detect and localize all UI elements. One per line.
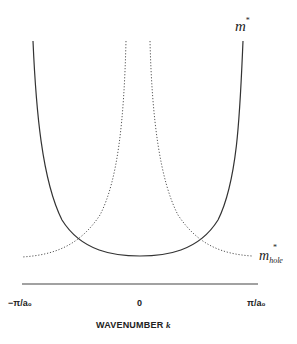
tick-label-center: 0 — [137, 298, 142, 308]
x-axis-label-variable: k — [166, 320, 171, 330]
m-hole-label: mhole* — [259, 247, 277, 265]
m-hole-superscript: * — [273, 243, 277, 252]
m-star-text: m — [235, 18, 246, 34]
m-star-superscript: * — [246, 16, 250, 25]
m-hole-text: m — [259, 248, 269, 263]
tick-label-left: −π/a₀ — [8, 298, 32, 308]
x-axis-label: WAVENUMBER k — [96, 320, 171, 330]
m-star-label: m* — [235, 18, 250, 35]
m-hole-subscript: hole — [269, 256, 283, 265]
plot-area — [0, 0, 297, 344]
tick-label-right: π/a₀ — [247, 298, 265, 308]
x-axis-label-text: WAVENUMBER — [96, 320, 166, 330]
m-hole-curve-left — [22, 41, 126, 257]
m-hole-curve-right — [150, 41, 252, 256]
m-star-curve — [33, 41, 243, 256]
